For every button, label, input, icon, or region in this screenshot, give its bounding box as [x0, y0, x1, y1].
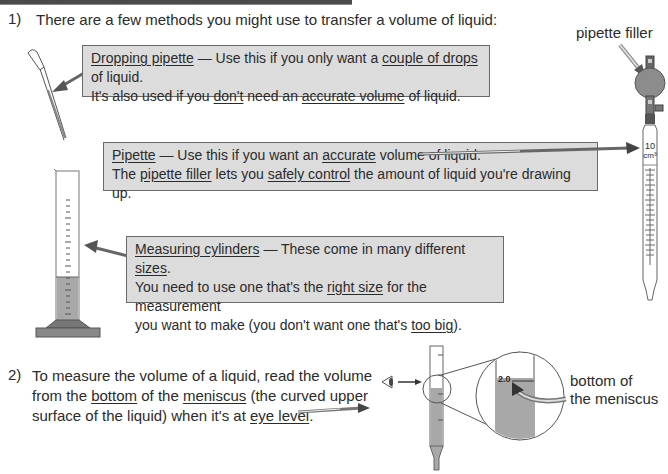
meniscus-label-line-2: the meniscus [570, 390, 658, 408]
meniscus-diagram-icon [0, 0, 668, 474]
meniscus-reading-label: 2.0 [498, 374, 511, 384]
meniscus-label-line-1: bottom of [570, 372, 633, 390]
